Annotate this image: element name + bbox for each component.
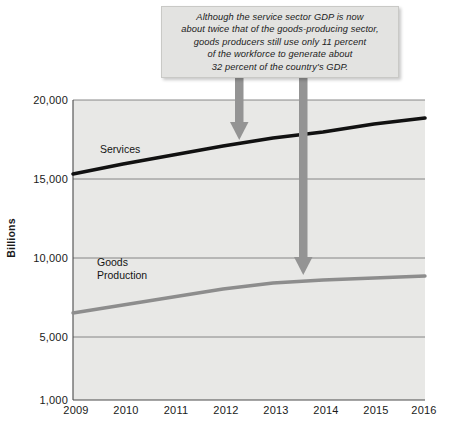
annotation-callout: Although the service sector GDP is now a… — [161, 6, 399, 78]
gdp-line-chart: Although the service sector GDP is now a… — [0, 0, 449, 429]
x-tick-2009: 2009 — [51, 404, 101, 416]
y-tick-20000: 20,000 — [22, 94, 68, 106]
x-tick-2016: 2016 — [399, 404, 449, 416]
series-label-goods-production: Goods Production — [97, 256, 147, 282]
x-axis-ticks: 2009 2010 2011 2012 2013 2014 2015 2016 — [0, 404, 449, 424]
y-tick-10000: 10,000 — [22, 252, 68, 264]
y-axis-title: Billions — [5, 208, 17, 268]
y-tick-15000: 15,000 — [22, 173, 68, 185]
annotation-callout-text: Although the service sector GDP is now a… — [175, 11, 384, 73]
x-tick-2012: 2012 — [201, 404, 251, 416]
x-tick-2010: 2010 — [101, 404, 151, 416]
x-tick-2013: 2013 — [251, 404, 301, 416]
x-tick-2014: 2014 — [301, 404, 351, 416]
x-tick-2015: 2015 — [351, 404, 401, 416]
y-axis-ticks: 20,000 15,000 10,000 5,000 1,000 — [16, 0, 68, 429]
y-tick-5000: 5,000 — [22, 331, 68, 343]
x-tick-2011: 2011 — [151, 404, 201, 416]
series-label-services: Services — [100, 143, 140, 156]
